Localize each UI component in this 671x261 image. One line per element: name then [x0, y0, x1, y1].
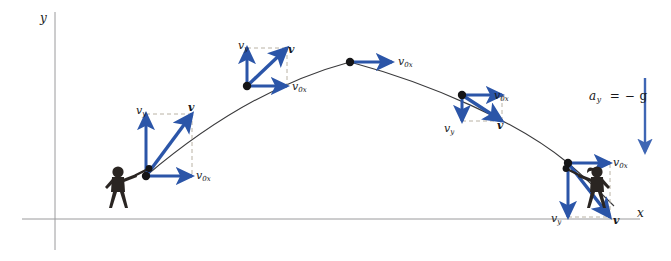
figure-ball — [563, 165, 570, 172]
vector-label-subscript: y — [244, 44, 248, 53]
label-v-ascend: v — [288, 44, 294, 55]
gravity-a: a — [589, 89, 597, 103]
vector-label-subscript: y — [450, 127, 454, 136]
y-axis-label: y — [40, 12, 47, 24]
vector-label-base: v — [288, 43, 294, 56]
figure-leg-back — [109, 192, 117, 208]
label-v0x-apex: v0x — [398, 56, 413, 67]
vector-label-subscript: y — [557, 217, 561, 226]
vector-label-subscript: y — [142, 109, 146, 118]
label-vy-descend: vy — [444, 123, 454, 134]
point-launch — [142, 172, 150, 180]
label-v0x-launch: v0x — [196, 170, 211, 181]
vector-label-subscript: 0x — [619, 161, 627, 170]
trajectory-curve — [146, 62, 614, 206]
vector-label-base: v — [497, 119, 503, 132]
vector-label-subscript: 0x — [500, 94, 508, 103]
x-axis-label: x — [637, 207, 644, 219]
vector-label-base: v — [188, 101, 194, 114]
figure-ball — [146, 165, 153, 172]
point-apex — [346, 58, 354, 66]
point-ascend — [243, 82, 251, 90]
axes — [22, 12, 640, 250]
figure-torso — [111, 177, 125, 192]
vector-v-ascend — [247, 48, 287, 86]
figure-leg-front — [587, 192, 595, 208]
projectile-motion-figure: vyv0xvvyv0xvv0xv0xvyvv0xvyv y x ay = − g — [0, 0, 671, 261]
figure-leg-front — [120, 192, 128, 208]
label-vy-ascend: vy — [238, 40, 248, 51]
batter-figure — [105, 165, 152, 208]
gravity-label: ay = − g — [589, 90, 648, 102]
figure-torso — [590, 177, 604, 192]
parabolic-path — [146, 62, 614, 206]
label-v-landing: v — [613, 215, 619, 226]
figure-head — [112, 166, 123, 177]
label-v0x-descend: v0x — [494, 90, 509, 101]
gravity-sub: y — [597, 95, 602, 104]
label-v-descend: v — [497, 120, 503, 131]
vector-label-base: v — [613, 214, 619, 227]
figure-head — [591, 166, 602, 177]
vector-label-subscript: 0x — [404, 60, 412, 69]
construction-dashed-lines — [146, 48, 610, 217]
velocity-vectors — [146, 48, 610, 217]
diagram-canvas — [0, 0, 671, 261]
label-v0x-landing: v0x — [613, 157, 628, 168]
label-vy-landing: vy — [551, 213, 561, 224]
label-v-launch: v — [188, 102, 194, 113]
label-vy-launch: vy — [136, 105, 146, 116]
gravity-expression: = − g — [610, 89, 648, 103]
vector-label-subscript: 0x — [298, 85, 306, 94]
stick-figures — [105, 165, 610, 208]
label-v0x-ascend: v0x — [292, 81, 307, 92]
vector-label-subscript: 0x — [202, 174, 210, 183]
point-descend — [458, 91, 466, 99]
trajectory-points — [142, 58, 572, 180]
